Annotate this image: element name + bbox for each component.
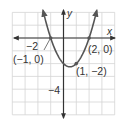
y-axis-label: y <box>66 8 73 19</box>
point-2-0 <box>87 36 91 40</box>
point-label-neg1-0: (−1, 0) <box>13 53 44 65</box>
tick-label-neg4: −4 <box>48 84 60 96</box>
leader-line <box>44 39 50 50</box>
point-label-1-neg2: (1, −2) <box>76 65 107 77</box>
x-axis-label: x <box>106 26 113 37</box>
tick-label-neg2: −2 <box>26 40 38 52</box>
parabola-graph: y x −2 −4 (−1, 0) (2, 0) (1, −2) <box>0 0 125 124</box>
point-label-2-0: (2, 0) <box>88 43 113 55</box>
